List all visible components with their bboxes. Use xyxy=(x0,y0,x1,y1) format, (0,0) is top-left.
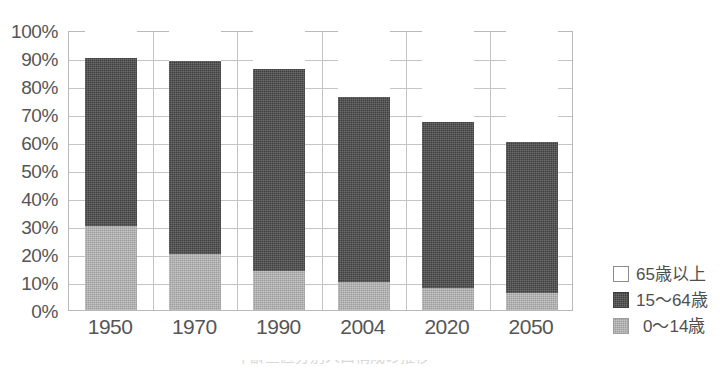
legend-item-old[interactable]: 65歳以上 xyxy=(613,262,727,286)
gridline-horizontal xyxy=(69,60,572,61)
bar-group[interactable] xyxy=(506,30,558,310)
bar-segment-working[interactable] xyxy=(85,58,137,226)
y-axis-tick-label: 30% xyxy=(21,218,58,237)
y-axis-tick-label: 70% xyxy=(21,106,58,125)
x-axis-tick-label: 2020 xyxy=(424,315,469,339)
chart-legend: 65歳以上 15〜64歳 0〜14歳 xyxy=(613,262,727,340)
legend-swatch-old-icon xyxy=(613,266,629,282)
bar-group[interactable] xyxy=(422,30,474,310)
legend-swatch-young-icon xyxy=(613,318,629,334)
bar-segment-old[interactable] xyxy=(85,30,137,58)
legend-label-young: 0〜14歳 xyxy=(636,317,705,336)
x-axis: 195019701990200420202050 xyxy=(68,313,573,347)
gridline-horizontal xyxy=(69,116,572,117)
legend-item-working[interactable]: 15〜64歳 xyxy=(613,288,727,312)
y-axis-tick-label: 80% xyxy=(21,78,58,97)
bar-segment-young[interactable] xyxy=(253,271,305,310)
bar-segment-working[interactable] xyxy=(253,69,305,271)
bar-segment-old[interactable] xyxy=(506,30,558,142)
y-axis-tick-label: 90% xyxy=(21,50,58,69)
bar-segment-young[interactable] xyxy=(85,226,137,310)
y-axis-tick-label: 50% xyxy=(21,162,58,181)
legend-label-old: 65歳以上 xyxy=(636,265,706,284)
gridline-horizontal xyxy=(69,172,572,173)
legend-item-young[interactable]: 0〜14歳 xyxy=(613,314,727,338)
bar-segment-old[interactable] xyxy=(422,30,474,122)
gridline-horizontal xyxy=(69,200,572,201)
y-axis-tick-label: 20% xyxy=(21,246,58,265)
y-axis-tick-label: 40% xyxy=(21,190,58,209)
bar-group[interactable] xyxy=(169,30,221,310)
y-axis-tick-label: 60% xyxy=(21,134,58,153)
x-axis-tick-label: 2004 xyxy=(340,315,385,339)
bar-group[interactable] xyxy=(338,30,390,310)
bar-segment-old[interactable] xyxy=(169,30,221,61)
legend-swatch-working-icon xyxy=(613,292,629,308)
gridline-horizontal xyxy=(69,144,572,145)
gridline-horizontal xyxy=(69,88,572,89)
stacked-bar-chart: 0%10%20%30%40%50%60%70%80%90%100% 195019… xyxy=(0,0,727,367)
gridline-vertical xyxy=(322,32,323,310)
gridline-horizontal xyxy=(69,256,572,257)
x-axis-tick-label: 1950 xyxy=(88,315,133,339)
y-axis-tick-label: 10% xyxy=(21,274,58,293)
bar-segment-old[interactable] xyxy=(253,30,305,69)
x-axis-tick-label: 1970 xyxy=(172,315,217,339)
bar-segment-young[interactable] xyxy=(422,288,474,310)
bar-segment-young[interactable] xyxy=(506,293,558,310)
gridline-horizontal xyxy=(69,284,572,285)
legend-label-working: 15〜64歳 xyxy=(636,291,708,310)
bar-segment-working[interactable] xyxy=(338,97,390,282)
y-axis-tick-label: 0% xyxy=(31,302,58,321)
y-axis: 0%10%20%30%40%50%60%70%80%90%100% xyxy=(0,31,62,311)
figure-caption-strip: 年齢三区分別人口構成の推移 xyxy=(0,360,727,367)
bar-group[interactable] xyxy=(85,30,137,310)
bar-segment-old[interactable] xyxy=(338,30,390,97)
bar-segment-working[interactable] xyxy=(422,122,474,287)
x-axis-tick-label: 2050 xyxy=(509,315,554,339)
bar-segment-young[interactable] xyxy=(169,254,221,310)
gridline-vertical xyxy=(406,32,407,310)
bar-segment-working[interactable] xyxy=(506,142,558,293)
gridline-horizontal xyxy=(69,228,572,229)
plot-area xyxy=(68,31,573,311)
y-axis-tick-label: 100% xyxy=(11,22,58,41)
gridline-vertical xyxy=(153,32,154,310)
bar-segment-young[interactable] xyxy=(338,282,390,310)
bar-segment-working[interactable] xyxy=(169,61,221,254)
bar-group[interactable] xyxy=(253,30,305,310)
gridline-vertical xyxy=(237,32,238,310)
figure-caption: 年齢三区分別人口構成の推移 xyxy=(235,360,430,366)
gridline-vertical xyxy=(490,32,491,310)
x-axis-tick-label: 1990 xyxy=(256,315,301,339)
